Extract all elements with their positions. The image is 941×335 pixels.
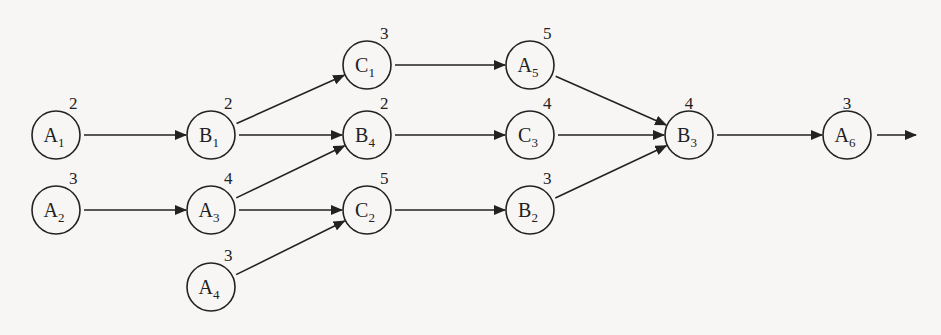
node-a5: A55 — [506, 24, 554, 89]
node-weight: 2 — [69, 94, 78, 113]
edge-a4-to-c2 — [236, 221, 344, 275]
node-weight: 4 — [224, 169, 233, 188]
node-weight: 3 — [224, 246, 233, 265]
node-a6: A63 — [823, 94, 871, 159]
edge-a5-to-b3 — [556, 76, 666, 125]
edge-b2-to-b3 — [555, 146, 666, 198]
activity-network-diagram: A12A23B12A34A43C13B42C25A55C34B23B34A63 — [0, 0, 941, 335]
node-weight: 5 — [543, 24, 552, 43]
node-weight: 3 — [843, 94, 852, 113]
node-b4: B42 — [343, 94, 391, 159]
node-c2: C25 — [343, 169, 391, 234]
node-weight: 3 — [69, 169, 78, 188]
node-a3: A34 — [187, 169, 235, 234]
node-b3: B34 — [665, 94, 713, 159]
node-b2: B23 — [506, 169, 554, 234]
node-a2: A23 — [32, 169, 80, 234]
node-weight: 4 — [543, 94, 552, 113]
node-layer: A12A23B12A34A43C13B42C25A55C34B23B34A63 — [32, 24, 871, 311]
node-c1: C13 — [343, 24, 391, 89]
node-weight: 3 — [543, 169, 552, 188]
node-a1: A12 — [32, 94, 80, 159]
edge-layer — [84, 65, 916, 275]
edge-b1-to-c1 — [237, 75, 345, 123]
node-weight: 3 — [380, 24, 389, 43]
node-a4: A43 — [187, 246, 235, 311]
node-c3: C34 — [506, 94, 554, 159]
node-weight: 4 — [685, 94, 694, 113]
edge-a3-to-b4 — [236, 146, 344, 198]
node-b1: B12 — [187, 94, 235, 159]
node-weight: 2 — [224, 94, 233, 113]
node-weight: 5 — [380, 169, 389, 188]
node-weight: 2 — [380, 94, 389, 113]
